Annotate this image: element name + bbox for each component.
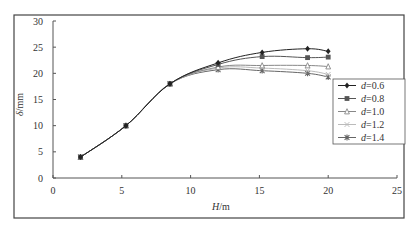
square-marker — [305, 55, 310, 60]
line-chart-svg: 0510152025051015202530H/mδ/mm d=0.6d=0.8… — [0, 0, 414, 229]
x-tick-label: 10 — [186, 185, 196, 196]
square-marker — [345, 96, 350, 101]
y-tick-label: 15 — [33, 94, 43, 105]
y-tick-label: 25 — [33, 42, 43, 53]
legend-label: d=0.8 — [361, 93, 384, 104]
y-tick-label: 10 — [33, 120, 43, 131]
y-tick-label: 20 — [33, 68, 43, 79]
x-axis-title: H/m — [211, 201, 230, 212]
y-tick-label: 30 — [33, 16, 43, 27]
x-tick-label: 0 — [51, 185, 56, 196]
legend-label: d=1.4 — [361, 132, 384, 143]
legend-label: d=1.2 — [361, 119, 384, 130]
x-tick-label: 25 — [392, 185, 402, 196]
chart: 0510152025051015202530H/mδ/mm d=0.6d=0.8… — [0, 0, 414, 229]
legend-label: d=0.6 — [361, 80, 384, 91]
square-marker — [326, 55, 331, 60]
y-tick-label: 5 — [38, 146, 43, 157]
y-tick-label: 0 — [38, 173, 43, 184]
x-tick-label: 20 — [323, 185, 333, 196]
x-tick-label: 5 — [119, 185, 124, 196]
legend: d=0.6d=0.8d=1.0d=1.2d=1.4 — [333, 79, 405, 144]
x-tick-label: 15 — [254, 185, 264, 196]
y-axis-title: δ/mm — [14, 93, 25, 116]
legend-label: d=1.0 — [361, 106, 384, 117]
